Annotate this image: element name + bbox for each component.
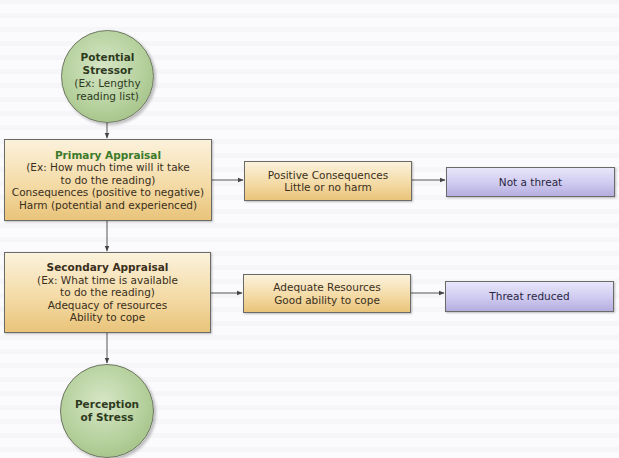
perception-of-stress-node: Perception of Stress xyxy=(60,364,154,458)
adequate-resources-box: Adequate Resources Good ability to cope xyxy=(243,274,411,313)
secondary-appraisal-line-1: (Ex: What time is available xyxy=(37,274,178,287)
primary-appraisal-title: Primary Appraisal xyxy=(55,149,161,162)
stressor-detail-line-2: reading list) xyxy=(76,90,139,103)
secondary-appraisal-line-3: Adequacy of resources xyxy=(48,299,168,312)
secondary-appraisal-title: Secondary Appraisal xyxy=(47,261,169,274)
threat-reduced-label: Threat reduced xyxy=(489,290,569,303)
secondary-appraisal-line-2: to do the reading) xyxy=(60,286,155,299)
threat-reduced-box: Threat reduced xyxy=(445,281,614,312)
secondary-appraisal-line-4: Ability to cope xyxy=(70,311,145,324)
potential-stressor-node: Potential Stressor (Ex: Lengthy reading … xyxy=(61,30,154,123)
primary-appraisal-line-1: (Ex: How much time will it take xyxy=(26,161,190,174)
stressor-title-line-2: Stressor xyxy=(83,64,133,77)
positive-consequences-box: Positive Consequences Little or no harm xyxy=(244,161,412,201)
positive-consequences-line-2: Little or no harm xyxy=(284,181,372,194)
stressor-detail-line-1: (Ex: Lengthy xyxy=(74,77,140,90)
adequate-resources-line-1: Adequate Resources xyxy=(273,281,380,294)
primary-appraisal-line-3: Consequences (positive to negative) xyxy=(12,186,204,199)
positive-consequences-line-1: Positive Consequences xyxy=(268,169,388,182)
stressor-title-line-1: Potential xyxy=(81,51,135,64)
primary-appraisal-line-2: to do the reading) xyxy=(61,174,156,187)
primary-appraisal-line-4: Harm (potential and experienced) xyxy=(19,199,197,212)
primary-appraisal-box: Primary Appraisal (Ex: How much time wil… xyxy=(4,139,212,221)
not-a-threat-box: Not a threat xyxy=(446,167,615,197)
not-a-threat-label: Not a threat xyxy=(499,176,562,189)
adequate-resources-line-2: Good ability to cope xyxy=(274,294,380,307)
perception-title-line-1: Perception xyxy=(75,398,139,411)
perception-title-line-2: of Stress xyxy=(81,411,134,424)
secondary-appraisal-box: Secondary Appraisal (Ex: What time is av… xyxy=(4,252,211,333)
